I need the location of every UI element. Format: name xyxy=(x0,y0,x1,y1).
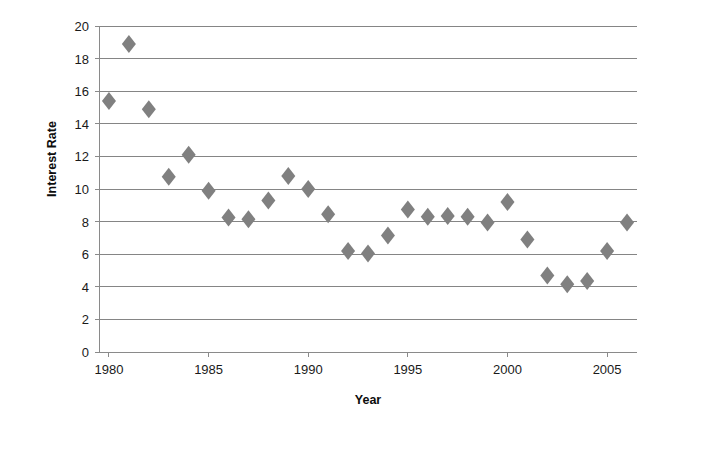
y-tick-label-0: 0 xyxy=(82,345,89,360)
x-tick-label-1985: 1985 xyxy=(194,362,223,377)
scatter-chart: 02468101214161820 1980198519901995200020… xyxy=(0,0,710,451)
y-tick-label-10: 10 xyxy=(75,182,89,197)
y-axis-title: Interest Rate xyxy=(45,121,59,197)
y-tick-label-20: 20 xyxy=(75,19,89,34)
x-tick-label-1990: 1990 xyxy=(294,362,323,377)
y-tick-label-8: 8 xyxy=(82,215,89,230)
y-tick-label-14: 14 xyxy=(75,117,89,132)
x-tick-label-2000: 2000 xyxy=(493,362,522,377)
y-tick-label-12: 12 xyxy=(75,149,89,164)
x-tick-label-1980: 1980 xyxy=(95,362,124,377)
y-tick-label-6: 6 xyxy=(82,247,89,262)
y-tick-label-2: 2 xyxy=(82,312,89,327)
y-tick-label-4: 4 xyxy=(82,280,89,295)
chart-background xyxy=(0,0,710,451)
x-tick-label-1995: 1995 xyxy=(393,362,422,377)
x-tick-label-2005: 2005 xyxy=(593,362,622,377)
y-tick-label-16: 16 xyxy=(75,84,89,99)
x-axis-title: Year xyxy=(355,393,382,407)
chart-canvas: 02468101214161820 1980198519901995200020… xyxy=(0,0,710,451)
y-tick-label-18: 18 xyxy=(75,52,89,67)
